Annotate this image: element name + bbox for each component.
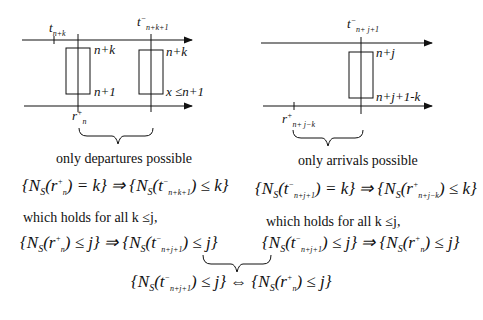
bottom-left-implication: {NS(r+n) ≤ j} ⇒ {NS(t−n+j+1) ≤ j}	[20, 232, 217, 254]
bottom-right-implication: {NS(t−n+j+1) ≤ j} ⇒ {NS(r+n) ≤ j}	[262, 232, 459, 254]
r-n-plus-j-minus-k-label: r+n+ j−k	[282, 111, 315, 129]
arrivals-caption: only arrivals possible	[298, 153, 418, 169]
rect1-top-label: n+k	[94, 42, 115, 58]
t-n-plus-k-label: tn+k	[49, 20, 66, 38]
r-n-label: r+n	[72, 108, 86, 126]
rect2-bottom-label: x ≤n+1	[166, 84, 204, 100]
rect2-top-label: n+k	[166, 44, 187, 60]
conclusion-equivalence: {NS(t−n+j+1) ≤ j} ⇔ {NS(r+n) ≤ j}	[131, 272, 331, 293]
rect1-bottom-label: n+1	[94, 84, 116, 100]
rect-bottom-label: n+j+1-k	[376, 89, 420, 105]
departures-implication: {NS(r+n) = k} ⇒ {NS(t−n+k+1) ≤ k}	[22, 175, 229, 197]
arrivals-holds: which holds for all k ≤j,	[266, 214, 400, 230]
rect-top-label: n+j	[376, 45, 395, 61]
arrivals-implication: {NS(t−n+j+1) = k} ⇒ {NS(r+n+j−k) ≤ k}	[255, 178, 477, 200]
departures-holds: which holds for all k ≤j,	[23, 210, 157, 226]
departures-caption: only departures possible	[56, 151, 192, 167]
t-n-plus-j-plus-1-label: t−n+ j+1	[347, 16, 379, 34]
t-n-plus-k-plus-1-label: t−n+k+1	[137, 14, 168, 32]
